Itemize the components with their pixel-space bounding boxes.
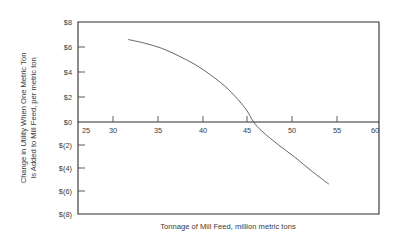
y-axis-ticks <box>78 47 85 191</box>
y-tick-label: $(2) <box>59 141 72 150</box>
x-axis-tick-labels: 25 30 35 40 45 50 55 60 <box>82 126 379 135</box>
plot-frame <box>78 22 379 214</box>
y-tick-label: $6 <box>64 43 72 52</box>
y-tick-label: $(8) <box>59 210 72 219</box>
x-tick-label: 50 <box>288 126 296 135</box>
y-axis-tick-labels: $8 $6 $4 $2 $0 $(2) $(4) $(6) $(8) <box>59 18 72 219</box>
x-axis-title: Tonnage of Mill Feed, million metric ton… <box>160 222 296 231</box>
y-tick-label: $(6) <box>59 187 72 196</box>
utility-curve <box>128 40 329 185</box>
y-tick-label: $2 <box>64 93 72 102</box>
y-axis-title-line1: Change in Utility When One Metric Ton <box>19 53 28 184</box>
y-tick-label: $0 <box>64 118 72 127</box>
y-tick-label: $4 <box>64 68 72 77</box>
x-tick-label: 55 <box>333 126 341 135</box>
x-axis-ticks <box>113 116 337 122</box>
y-axis-title-line2: Is Added to Mill Feed, per metric ton <box>29 57 38 179</box>
y-tick-label: $8 <box>64 18 72 27</box>
x-tick-label: 40 <box>199 126 207 135</box>
x-tick-label: 30 <box>109 126 117 135</box>
x-tick-label: 25 <box>82 126 90 135</box>
x-tick-label: 60 <box>371 126 379 135</box>
y-axis-title: Change in Utility When One Metric Ton Is… <box>19 53 38 184</box>
x-tick-label: 45 <box>243 126 251 135</box>
y-tick-label: $(4) <box>59 164 72 173</box>
chart-figure: $8 $6 $4 $2 $0 $(2) $(4) $(6) $(8) 25 30… <box>0 0 401 243</box>
x-tick-label: 35 <box>154 126 162 135</box>
utility-vs-tonnage-line-chart: $8 $6 $4 $2 $0 $(2) $(4) $(6) $(8) 25 30… <box>0 0 401 243</box>
